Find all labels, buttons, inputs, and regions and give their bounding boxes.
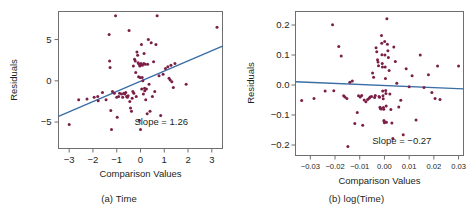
data-point — [130, 110, 133, 113]
data-point — [374, 94, 377, 97]
y-tick-label: 0.1 — [276, 49, 289, 60]
y-tick-label: 5 — [46, 34, 51, 45]
x-tick-label: −0.02 — [325, 162, 344, 171]
data-point — [389, 108, 392, 111]
data-point — [143, 52, 146, 55]
data-point — [397, 105, 400, 108]
data-point — [382, 108, 385, 111]
data-point — [150, 41, 153, 44]
y-axis-ticks-b — [292, 25, 296, 145]
data-point — [134, 71, 137, 74]
data-point — [360, 94, 363, 97]
data-point — [185, 83, 188, 86]
data-point — [380, 53, 383, 56]
panel-caption-log-time: (b) log(Time) — [238, 193, 475, 204]
y-tick-label: −0.1 — [271, 109, 290, 120]
data-point — [105, 98, 108, 101]
x-tick-label: 2 — [185, 154, 190, 165]
y-tick-label: 0.2 — [276, 19, 289, 30]
data-point — [385, 17, 388, 20]
data-point — [361, 124, 364, 127]
data-point — [128, 29, 131, 32]
x-tick-label: 0 — [138, 154, 143, 165]
data-point — [388, 93, 391, 96]
data-point — [457, 65, 460, 68]
data-point — [384, 89, 387, 92]
data-point — [128, 100, 131, 103]
data-point — [386, 43, 389, 46]
data-point — [353, 122, 356, 125]
data-point — [93, 96, 96, 99]
data-point — [129, 107, 132, 110]
data-point — [101, 91, 104, 94]
data-point — [121, 96, 124, 99]
data-point — [173, 62, 176, 65]
data-point — [169, 64, 172, 67]
data-point — [166, 65, 169, 68]
scatter-plot-time: −3−2−10123 50−5 Comparison Values Residu… — [0, 0, 238, 190]
x-axis-title-a: Comparison Values — [99, 168, 181, 179]
data-point — [385, 105, 388, 108]
data-point — [390, 122, 393, 125]
data-point — [117, 95, 120, 98]
data-point — [399, 99, 402, 102]
y-axis-title-b: Residuals — [245, 62, 256, 104]
data-point — [385, 121, 388, 124]
figure-residual-plots: −3−2−10123 50−5 Comparison Values Residu… — [0, 0, 475, 223]
data-point — [430, 91, 433, 94]
data-point — [108, 60, 111, 63]
data-point — [340, 54, 343, 57]
panel-log-time: −0.03−0.02−0.010.000.010.020.03 0.20.10.… — [238, 0, 475, 223]
data-point — [364, 100, 367, 103]
data-point — [147, 38, 150, 41]
data-point — [415, 119, 418, 122]
data-point — [384, 77, 387, 80]
data-point — [375, 46, 378, 49]
data-point — [170, 80, 173, 83]
data-point — [68, 123, 71, 126]
data-point — [395, 82, 398, 85]
data-point — [384, 66, 387, 69]
x-axis-ticks-b — [310, 156, 458, 160]
slope-annotation-b: Slope = −0.27 — [372, 135, 431, 146]
data-point — [388, 69, 391, 72]
data-point — [394, 60, 397, 63]
data-point — [419, 54, 422, 57]
data-point — [77, 98, 80, 101]
data-point — [144, 98, 147, 101]
data-point — [380, 42, 383, 45]
x-tick-label: 0.00 — [377, 162, 392, 171]
data-point — [337, 45, 340, 48]
x-axis-ticks-a — [69, 149, 212, 153]
data-point — [372, 76, 375, 79]
data-point — [158, 74, 161, 77]
data-point — [434, 97, 437, 100]
x-axis-ticklabels-b: −0.03−0.02−0.010.000.010.020.03 — [301, 162, 466, 171]
x-tick-label: 0.01 — [402, 162, 417, 171]
fit-line-group-b — [296, 82, 464, 89]
data-point — [378, 96, 381, 99]
x-tick-label: −2 — [88, 154, 99, 165]
data-point — [300, 99, 303, 102]
data-point — [351, 80, 354, 83]
y-axis-ticklabels-a: 50−5 — [41, 34, 52, 128]
data-point — [139, 128, 142, 131]
data-point — [131, 97, 134, 100]
data-point — [408, 85, 411, 88]
x-tick-label: −3 — [64, 154, 75, 165]
data-point — [162, 73, 165, 76]
slope-annotation-a: Slope = 1.26 — [134, 116, 188, 127]
data-point — [216, 26, 219, 29]
x-tick-label: 0.02 — [426, 162, 441, 171]
data-point — [156, 14, 159, 17]
data-point — [140, 88, 143, 91]
data-point — [153, 90, 156, 93]
x-tick-label: −0.03 — [301, 162, 320, 171]
data-point — [381, 66, 384, 69]
data-point — [152, 60, 155, 63]
plot-frame-a — [59, 12, 223, 149]
data-point — [370, 95, 373, 98]
data-point — [154, 43, 157, 46]
data-point — [109, 109, 112, 112]
data-point — [313, 97, 316, 100]
